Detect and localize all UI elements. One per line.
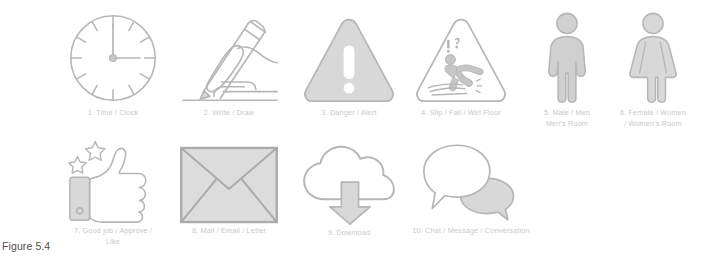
icon-label: 1. Time / Clock (52, 108, 174, 119)
slip-fall-wet-floor-icon (400, 10, 522, 106)
download-cloud-icon (288, 136, 410, 226)
icon-cell-write-draw: 2. Write / Draw (168, 10, 290, 119)
thumbs-up-icon (52, 136, 174, 224)
icon-label: 2. Write / Draw (168, 108, 290, 119)
icon-label: 3. Danger / Alert (288, 108, 410, 119)
mail-envelope-icon (168, 136, 290, 224)
write-draw-icon (168, 10, 290, 106)
icon-label: 9. Download (288, 228, 410, 239)
chat-message-icon (398, 136, 544, 224)
male-restroom-icon (524, 10, 610, 106)
icon-label: 10. Chat / Message / Conversation (398, 226, 544, 237)
icon-cell-female-restroom: 6. Female / Women / Women's Room (608, 10, 698, 129)
icon-cell-thumbs-up: 7. Good job / Approve / Like (52, 136, 174, 247)
icon-cell-download: 9. Download (288, 136, 410, 239)
icon-cell-mail: 8. Mail / Email / Letter (168, 136, 290, 237)
danger-alert-icon (288, 10, 410, 106)
icon-label: 8. Mail / Email / Letter (168, 226, 290, 237)
icon-label: 7. Good job / Approve / Like (52, 226, 174, 247)
figure-plate: 1. Time / Clock (0, 0, 702, 256)
icon-cell-clock: 1. Time / Clock (52, 10, 174, 119)
icon-cell-male-restroom: 5. Male / Men Men's Room (524, 10, 610, 129)
figure-caption: Figure 5.4 (2, 240, 50, 253)
icon-cell-chat: 10. Chat / Message / Conversation (398, 136, 544, 237)
icon-cell-danger-alert: 3. Danger / Alert (288, 10, 410, 119)
icon-label: 4. Slip / Fall / Wet Floor (400, 108, 522, 119)
icon-cell-slip-fall: 4. Slip / Fall / Wet Floor (400, 10, 522, 119)
icon-label: 5. Male / Men Men's Room (524, 108, 610, 129)
female-restroom-icon (608, 10, 698, 106)
icon-label: 6. Female / Women / Women's Room (608, 108, 698, 129)
clock-icon (52, 10, 174, 106)
